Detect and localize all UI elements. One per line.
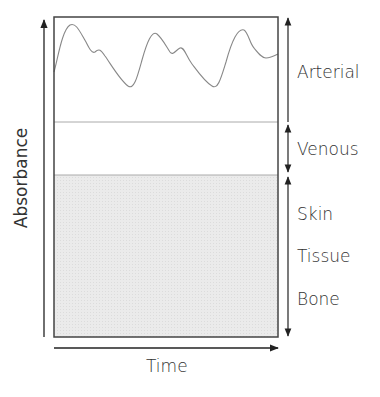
x-axis-label: Time bbox=[146, 358, 188, 375]
label-arterial: Arterial bbox=[297, 64, 360, 81]
label-bone: Bone bbox=[297, 291, 340, 308]
label-skin: Skin bbox=[297, 206, 333, 223]
ppg-absorbance-diagram bbox=[0, 0, 380, 397]
arterial-waveform bbox=[54, 24, 278, 86]
y-axis-label: Absorbance bbox=[11, 128, 31, 228]
label-tissue: Tissue bbox=[297, 248, 351, 265]
static-absorbance-region bbox=[54, 175, 278, 337]
label-venous: Venous bbox=[297, 141, 359, 158]
